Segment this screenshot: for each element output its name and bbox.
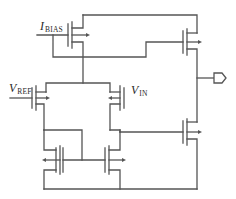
vin-label-main: V [131, 83, 138, 97]
mirror-right-transistor [105, 130, 122, 189]
output-top-transistor [183, 29, 198, 122]
top-rail-wire [83, 15, 197, 33]
output-bottom-arrow-icon [198, 130, 202, 134]
mirror-left-arrow-icon [42, 158, 46, 162]
vref-label-main: V [9, 81, 16, 95]
vin-label: VIN [131, 84, 148, 100]
ibias-label: IBIAS [40, 20, 63, 36]
mirror-right-drain-wire [110, 130, 120, 132]
vref-label: VREF [9, 82, 32, 98]
bias-arrow-icon [86, 33, 90, 37]
output-top-arrow-icon [198, 40, 202, 44]
mirror-left-transistor [44, 130, 63, 189]
vref-label-sub: REF [17, 87, 31, 96]
vin-label-sub: IN [139, 89, 147, 98]
tail-node-wire [46, 83, 110, 92]
ibias-label-main: I [40, 19, 44, 33]
vin-transistor [110, 86, 124, 130]
circuit-schematic [0, 0, 236, 199]
output-port-icon [214, 73, 226, 83]
mirror-right-arrow-icon [122, 158, 126, 162]
vref-arrow-icon [46, 96, 50, 100]
ibias-label-sub: BIAS [45, 25, 63, 34]
vin-arrow-icon [108, 96, 112, 100]
output-bottom-transistor [183, 119, 198, 189]
